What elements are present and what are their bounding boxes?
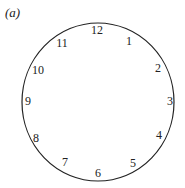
numeral-5: 5 bbox=[130, 156, 136, 170]
numeral-11: 11 bbox=[56, 36, 68, 50]
numeral-2: 2 bbox=[155, 61, 161, 75]
numeral-1: 1 bbox=[126, 34, 132, 48]
numeral-3: 3 bbox=[167, 94, 173, 108]
numeral-9: 9 bbox=[25, 94, 31, 108]
clock-face: 121234567891011 bbox=[0, 0, 185, 188]
numeral-7: 7 bbox=[62, 155, 68, 169]
clock-outline bbox=[22, 23, 174, 181]
numeral-10: 10 bbox=[32, 63, 44, 77]
numeral-4: 4 bbox=[156, 128, 162, 142]
numeral-12: 12 bbox=[91, 23, 103, 37]
numeral-8: 8 bbox=[33, 131, 39, 145]
clock-numerals: 121234567891011 bbox=[25, 23, 173, 180]
numeral-6: 6 bbox=[95, 166, 101, 180]
